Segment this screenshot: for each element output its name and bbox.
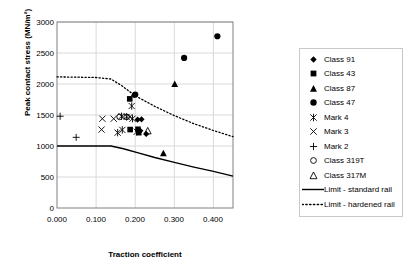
cross-x-icon [302, 125, 324, 140]
series-class-87 [160, 81, 178, 157]
legend-item-class-317m[interactable]: Class 317M [302, 168, 400, 183]
legend-item-label: Class 87 [324, 84, 355, 93]
legend-item-label: Mark 3 [324, 127, 348, 136]
square-filled-icon [302, 67, 324, 82]
legend-item-limit-standard-rail[interactable]: Limit - standard rail [302, 183, 400, 198]
legend-item-limit-hardened-rail[interactable]: Limit - hardened rail [302, 197, 400, 212]
chart-figure: Peak contact stress (MN/m²) Traction coe… [0, 0, 408, 267]
plus-icon [302, 139, 324, 154]
legend-item-label: Class 43 [324, 69, 355, 78]
series-class-47 [132, 33, 220, 97]
data-series-layer [57, 33, 233, 176]
legend-item-mark-2[interactable]: Mark 2 [302, 139, 400, 154]
legend-item-class-47[interactable]: Class 47 [302, 96, 400, 111]
series-limit-hardened-rail [57, 77, 233, 137]
legend-item-class-319t[interactable]: Class 319T [302, 154, 400, 169]
legend-item-label: Limit - standard rail [324, 185, 392, 194]
legend-item-mark-4[interactable]: Mark 4 [302, 110, 400, 125]
diamond-filled-icon [302, 52, 324, 67]
circle-filled-icon [302, 96, 324, 111]
legend-item-label: Mark 4 [324, 113, 348, 122]
legend-item-label: Class 317M [324, 171, 366, 180]
series-mark-2 [57, 113, 80, 141]
series-limit-standard-rail [57, 146, 233, 176]
legend-item-label: Mark 2 [324, 142, 348, 151]
legend-item-class-91[interactable]: Class 91 [302, 52, 400, 67]
line-dotted-icon [302, 197, 324, 212]
legend-item-label: Class 91 [324, 55, 355, 64]
legend-item-label: Class 319T [324, 156, 364, 165]
legend-item-class-87[interactable]: Class 87 [302, 81, 400, 96]
chart-legend: Class 91Class 43Class 87Class 47Mark 4Ma… [299, 48, 403, 217]
triangle-filled-icon [302, 81, 324, 96]
legend-item-mark-3[interactable]: Mark 3 [302, 125, 400, 140]
legend-item-label: Class 47 [324, 98, 355, 107]
line-solid-icon [302, 183, 324, 198]
legend-item-class-43[interactable]: Class 43 [302, 67, 400, 82]
legend-item-label: Limit - hardened rail [324, 200, 395, 209]
gridlines [57, 22, 233, 208]
star-icon [302, 110, 324, 125]
triangle-open-icon [302, 168, 324, 183]
circle-open-icon [302, 154, 324, 169]
